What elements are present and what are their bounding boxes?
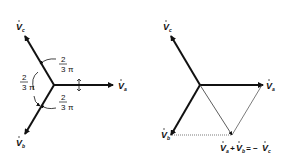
svg-text:= −: = − [246,144,258,153]
right-diagram: V c V a V b V a + V b = − V c [161,20,275,154]
angle-label-left: 2 3 π [20,73,35,92]
label-vc-right: V c [163,20,172,33]
angle-arc-left2 [34,96,40,106]
sum-equation-label: V a + V b = − V c [220,141,271,154]
svg-text:a: a [272,86,275,92]
phasor-vc-arrow-right [171,36,200,85]
svg-text:2: 2 [61,55,66,64]
phasor-vb-arrow [25,85,54,134]
angle-arc-bottom [41,105,56,109]
phasor-vb-arrow-right [171,85,200,135]
label-vc: V c [16,20,25,33]
svg-text:3: 3 [61,65,66,74]
angle-label-top: 2 3 π [59,55,74,74]
svg-text:a: a [226,148,229,154]
svg-text:3: 3 [61,103,66,112]
sum-vector-line [200,85,232,135]
svg-text:π: π [68,103,74,112]
svg-text:π: π [68,65,74,74]
svg-text:+: + [230,144,235,153]
svg-text:3: 3 [22,83,27,92]
svg-text:2: 2 [22,73,27,82]
label-vb-right: V b [161,128,170,141]
svg-text:a: a [124,86,127,92]
svg-text:b: b [22,143,25,149]
label-va-right: V a [266,79,275,92]
angle-arc-top [40,59,56,64]
label-va: V a [118,79,127,92]
va-tip-to-sum-line [232,85,262,135]
phasor-diagrams: 2 3 π 2 3 π 2 3 π V c V a V [0,0,283,161]
angle-label-bottom: 2 3 π [59,93,74,112]
svg-text:c: c [268,148,271,154]
label-vb: V b [16,136,25,149]
svg-text:b: b [242,148,245,154]
svg-text:π: π [29,83,35,92]
svg-text:c: c [169,27,172,33]
svg-text:c: c [22,27,25,33]
phasor-vc-arrow [25,36,54,85]
svg-text:2: 2 [61,93,66,102]
svg-text:b: b [167,135,170,141]
left-diagram: 2 3 π 2 3 π 2 3 π V c V a V [16,20,127,149]
